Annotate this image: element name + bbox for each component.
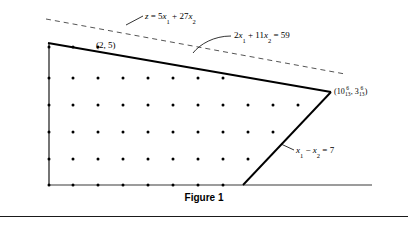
fraction-second: 613 [359, 86, 365, 97]
vertex-suffix: ) [365, 87, 368, 96]
vertex-label-2-5: (2, 5) [96, 41, 116, 50]
objective-function-label: z = 5x1 + 27x2 [145, 12, 196, 21]
objective-leader-line [126, 16, 143, 25]
constraint-2-label: x1 − x2 = 7 [296, 146, 334, 155]
constraint-2-leader-line [281, 144, 294, 150]
figure-caption: Figure 1 [0, 192, 408, 203]
vertex-label-fractional: (10613, 3613) [334, 86, 368, 97]
constraint-1-label: 2x1 + 11x2 = 59 [234, 31, 290, 40]
constraint-2-line [243, 92, 331, 185]
constraint-1-line [48, 43, 331, 92]
figure-page: z = 5x1 + 27x2 2x1 + 11x2 = 59 (2, 5) (1… [0, 0, 408, 227]
objective-contour-line [46, 19, 345, 74]
vertex-mid: , 3 [351, 87, 359, 96]
bottom-divider [0, 216, 408, 217]
vertex-prefix: (10 [334, 87, 345, 96]
constraint-1-leader-line [193, 36, 231, 53]
fraction-first: 613 [345, 86, 351, 97]
